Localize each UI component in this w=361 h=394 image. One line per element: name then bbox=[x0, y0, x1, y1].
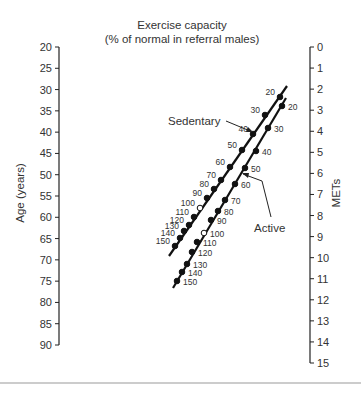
age-tick-label: 75 bbox=[40, 275, 52, 287]
active-arrowhead bbox=[242, 173, 249, 178]
age-tick-label: 40 bbox=[40, 126, 52, 138]
scale-marker-label: 30 bbox=[274, 124, 284, 134]
scale-marker-label: 110 bbox=[203, 238, 217, 248]
age-tick-label: 30 bbox=[40, 84, 52, 96]
scale-marker bbox=[250, 131, 256, 137]
age-tick-label: 20 bbox=[40, 41, 52, 53]
mets-tick-label: 14 bbox=[317, 336, 329, 348]
age-axis: 202530354045505560657075808590 bbox=[40, 41, 59, 351]
scale-marker bbox=[239, 147, 245, 153]
mets-tick-label: 9 bbox=[317, 231, 323, 243]
mets-tick-label: 11 bbox=[317, 273, 328, 285]
mets-tick-label: 5 bbox=[317, 146, 323, 158]
scale-marker bbox=[253, 148, 259, 154]
scale-marker bbox=[232, 181, 238, 187]
age-tick-label: 25 bbox=[40, 62, 52, 74]
mets-tick-label: 7 bbox=[317, 188, 323, 200]
scale-marker bbox=[218, 177, 224, 183]
scale-marker-label: 20 bbox=[266, 87, 276, 97]
scale-marker-label: 120 bbox=[198, 248, 212, 258]
scale-marker bbox=[277, 94, 283, 100]
scale-marker bbox=[215, 208, 221, 214]
scale-marker bbox=[262, 112, 268, 118]
scale-marker bbox=[189, 249, 195, 255]
scale-marker-label: 90 bbox=[193, 188, 203, 198]
active-label: Active bbox=[254, 222, 285, 234]
scale-marker-label: 40 bbox=[239, 124, 249, 134]
age-tick-label: 85 bbox=[40, 318, 52, 330]
mets-tick-label: 6 bbox=[317, 167, 323, 179]
scale-marker-label: 150 bbox=[183, 277, 197, 287]
age-tick-label: 35 bbox=[40, 105, 52, 117]
scale-marker bbox=[265, 125, 271, 131]
mets-tick-label: 12 bbox=[317, 294, 329, 306]
scale-marker-label: 30 bbox=[251, 105, 261, 115]
scale-marker-label: 50 bbox=[228, 140, 238, 150]
age-axis-label: Age (years) bbox=[14, 163, 26, 223]
scale-marker bbox=[201, 230, 207, 236]
scale-marker bbox=[172, 243, 178, 249]
scale-marker-label: 60 bbox=[241, 180, 251, 190]
scale-marker bbox=[208, 217, 214, 223]
scale-marker bbox=[174, 278, 180, 284]
mets-tick-label: 2 bbox=[317, 83, 323, 95]
scale-marker bbox=[197, 205, 203, 211]
scale-marker bbox=[227, 164, 233, 170]
scale-marker-label: 60 bbox=[216, 157, 226, 167]
mets-tick-label: 0 bbox=[317, 41, 323, 53]
scale-marker-label: 150 bbox=[156, 236, 170, 246]
mets-axis-label: METs bbox=[330, 178, 342, 207]
mets-tick-label: 8 bbox=[317, 210, 323, 222]
scale-marker bbox=[204, 195, 210, 201]
scale-marker bbox=[179, 269, 185, 275]
scale-marker bbox=[211, 186, 217, 192]
scale-marker bbox=[186, 222, 192, 228]
age-tick-label: 90 bbox=[40, 339, 52, 351]
scale-marker bbox=[194, 239, 200, 245]
title-line-2: (% of normal in referral males) bbox=[105, 33, 260, 45]
age-tick-label: 60 bbox=[40, 211, 52, 223]
scale-marker bbox=[191, 214, 197, 220]
scale-marker-label: 70 bbox=[231, 196, 241, 206]
mets-tick-label: 1 bbox=[317, 62, 323, 74]
nomogram: Exercise capacity (% of normal in referr… bbox=[0, 0, 361, 394]
scale-marker-label: 50 bbox=[251, 164, 261, 174]
title-line-1: Exercise capacity bbox=[137, 19, 227, 31]
age-tick-label: 80 bbox=[40, 296, 52, 308]
scale-marker bbox=[181, 228, 187, 234]
scale-marker bbox=[279, 103, 285, 109]
scale-marker-label: 90 bbox=[217, 216, 227, 226]
age-tick-label: 55 bbox=[40, 190, 52, 202]
scale-marker-label: 40 bbox=[262, 147, 272, 157]
mets-axis: 0123456789101112131415 bbox=[310, 41, 329, 369]
mets-tick-label: 13 bbox=[317, 315, 329, 327]
age-tick-label: 70 bbox=[40, 254, 52, 266]
scale-marker bbox=[184, 261, 190, 267]
age-tick-label: 45 bbox=[40, 147, 52, 159]
scale-marker bbox=[242, 165, 248, 171]
mets-tick-label: 10 bbox=[317, 252, 329, 264]
age-tick-label: 50 bbox=[40, 169, 52, 181]
mets-tick-label: 3 bbox=[317, 104, 323, 116]
scale-marker bbox=[222, 197, 228, 203]
sedentary-label: Sedentary bbox=[168, 115, 221, 127]
scale-marker bbox=[177, 235, 183, 241]
scale-marker-label: 20 bbox=[288, 102, 298, 112]
mets-tick-label: 4 bbox=[317, 125, 323, 137]
mets-tick-label: 15 bbox=[317, 357, 329, 369]
age-tick-label: 65 bbox=[40, 233, 52, 245]
